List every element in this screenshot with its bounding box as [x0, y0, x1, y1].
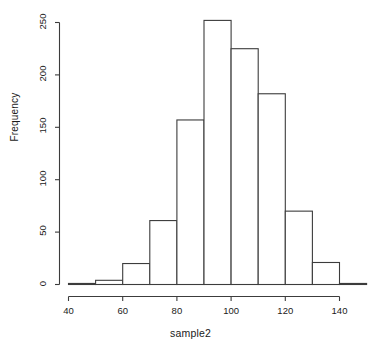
histogram-bar — [177, 120, 204, 285]
histogram-bar — [340, 283, 367, 284]
histogram-bar — [312, 262, 339, 284]
histogram-bar — [69, 283, 96, 284]
plot-area — [0, 0, 381, 355]
bars-group — [69, 20, 367, 284]
histogram-bar — [285, 211, 312, 284]
y-tick-label: 250 — [37, 9, 48, 33]
histogram-bar — [96, 280, 123, 284]
x-tick-label: 120 — [277, 305, 293, 316]
y-tick-label: 100 — [37, 166, 48, 190]
histogram-bar — [123, 264, 150, 285]
y-tick-label: 150 — [37, 114, 48, 138]
y-tick-label: 50 — [37, 219, 48, 243]
histogram-bar — [150, 221, 177, 285]
histogram-bar — [258, 94, 285, 285]
y-tick-label: 0 — [37, 271, 48, 295]
histogram-figure: Frequency sample2 050100150200250 406080… — [0, 0, 381, 355]
x-tick-label: 80 — [172, 305, 183, 316]
x-tick-label: 60 — [117, 305, 128, 316]
x-tick-label: 140 — [332, 305, 348, 316]
histogram-bar — [231, 49, 258, 285]
y-tick-label: 200 — [37, 61, 48, 85]
histogram-bar — [204, 20, 231, 284]
x-tick-label: 100 — [223, 305, 239, 316]
x-tick-label: 40 — [63, 305, 74, 316]
